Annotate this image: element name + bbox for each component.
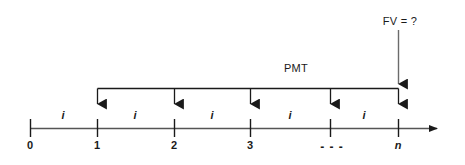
period-ellipsis: - - - bbox=[320, 141, 344, 153]
payment-label: PMT bbox=[284, 63, 308, 74]
rate-label-period-1: i bbox=[61, 110, 64, 121]
period-label-0: 0 bbox=[27, 140, 33, 151]
rate-label-period-4: i bbox=[288, 110, 291, 121]
period-label-3: 3 bbox=[247, 140, 253, 151]
rate-label-period-2: i bbox=[133, 110, 136, 121]
cash-flow-timeline-diagram: FV = ? PMT i i i i i 0 1 2 3 - - - n bbox=[0, 0, 465, 165]
rate-label-period-n: i bbox=[362, 110, 365, 121]
period-label-2: 2 bbox=[171, 140, 177, 151]
period-label-1: 1 bbox=[94, 140, 100, 151]
payment-arrows bbox=[98, 89, 399, 105]
period-label-n: n bbox=[395, 140, 402, 151]
rate-label-period-3: i bbox=[210, 110, 213, 121]
future-value-label: FV = ? bbox=[383, 16, 418, 27]
